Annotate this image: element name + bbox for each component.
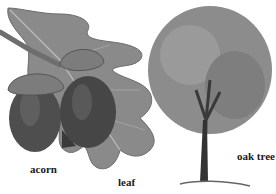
oak-tree-label: oak tree: [237, 150, 275, 162]
acorn-label: acorn: [30, 163, 57, 175]
oak-illustration: acorn leaf oak tree: [0, 0, 276, 194]
leaf-label: leaf: [118, 176, 135, 188]
acorn-illustration: [8, 49, 116, 152]
